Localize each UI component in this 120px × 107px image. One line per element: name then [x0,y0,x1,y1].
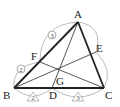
triangle-diagram: 2 3 2 3 A B C D E F G [0,0,120,107]
label-G: G [56,75,64,87]
side-AB [14,22,78,88]
ratio-DC: 3 [76,94,80,102]
ratio-FA: 3 [50,32,54,40]
segment-BE [14,52,96,88]
label-B: B [3,89,10,101]
ratio-BD: 2 [31,94,35,102]
label-C: C [105,89,112,101]
label-E: E [96,42,103,54]
label-A: A [74,8,82,20]
label-D: D [49,89,57,101]
side-AC [78,22,104,88]
label-F: F [31,50,37,62]
ratio-BF: 2 [19,66,23,74]
